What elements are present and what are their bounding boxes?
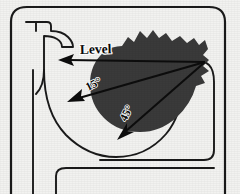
level-label: Level — [80, 41, 112, 57]
fifteen-degree-arrow-head — [67, 89, 85, 102]
pedestal-base — [56, 168, 214, 194]
toilet-diagram-svg: Level 15° 45° — [0, 0, 240, 194]
figure-container: Level 15° 45° — [0, 0, 240, 194]
